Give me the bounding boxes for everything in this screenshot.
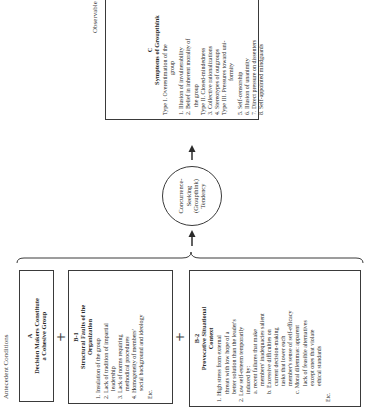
list-item: Type III. Pressures toward uni-: [221, 0, 228, 115]
box-c-list: Type I. Overestimation of the group 1. I…: [162, 0, 265, 115]
box-c-symptoms-of-groupthink: C Symptoms of Groupthink Type I. Overest…: [105, 0, 259, 120]
circle-line2: Seeking: [185, 186, 192, 207]
list-item: 8. Self-appointed mindguards: [258, 0, 265, 115]
box-c-letter: C: [146, 0, 153, 115]
list-item: 7. Direct pressure on dissenters: [251, 0, 258, 115]
list-item: Type II. Closed-mindedness: [200, 0, 207, 115]
arrow-right-icon: [189, 230, 196, 237]
list-item: formity: [228, 0, 235, 115]
list-item: the group: [193, 0, 200, 115]
list-item: group: [169, 0, 176, 115]
groupthink-diagram: Antecedent Conditions Observable Consequ…: [0, 0, 367, 413]
circle-line1: Concurrence-: [177, 179, 184, 214]
circle-line4: Tendency: [199, 184, 206, 209]
arrow-right-icon: [189, 145, 196, 152]
list-item: 6. Illusion of unanimity: [244, 0, 251, 115]
concurrence-seeking-circle: Concurrence- Seeking (Groupthink) Tenden…: [162, 166, 222, 226]
list-item: 4. Stereotypes of outgroups: [214, 0, 221, 115]
list-item: 2. Belief in inherent morality of: [185, 0, 192, 115]
curly-brace-icon: [17, 252, 363, 263]
list-item: Type I. Overestimation of the: [162, 0, 169, 115]
list-item: 1. Illusion of invulnerability: [178, 0, 185, 115]
list-item: 3. Collective rationalizations: [207, 0, 214, 115]
circle-line3: (Groupthink): [192, 179, 199, 213]
box-c-title: Symptoms of Groupthink: [153, 0, 160, 115]
list-item: 5. Self-censorship: [237, 0, 244, 115]
